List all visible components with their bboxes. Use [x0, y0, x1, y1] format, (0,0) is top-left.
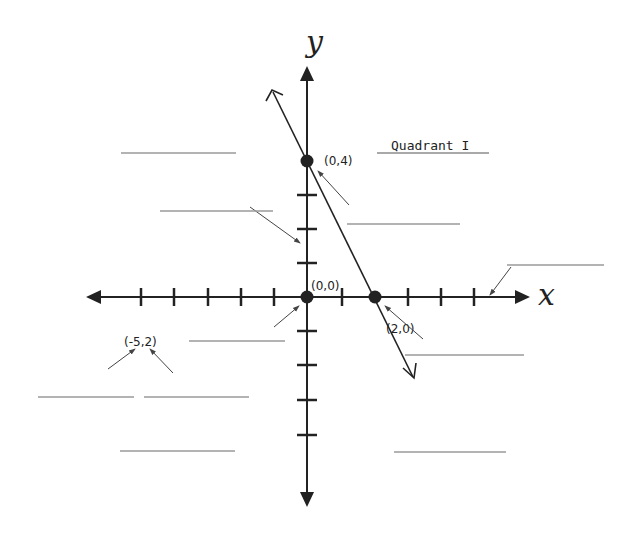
x-axis-label: x: [538, 277, 555, 312]
y-axis-label: y: [304, 24, 324, 59]
x-axis-right-arrow-icon: [515, 290, 530, 304]
point-0-4: [301, 155, 314, 168]
quadrant-label: Quadrant I: [391, 138, 469, 153]
pointer-to-origin: [274, 306, 299, 327]
point-label-0-4: (0,4): [324, 154, 352, 168]
point-label-0-0: (0,0): [311, 279, 339, 293]
pointer-to-0-4: [318, 171, 349, 205]
pointer-to-x-axis: [490, 267, 511, 295]
point-label-2-0: (2,0): [386, 322, 414, 336]
coordinate-plane-diagram: y x (0,4) (0,0) (2,0) (-5,2) Quadrant I: [0, 0, 640, 543]
pointer-from-neg5-2-left: [108, 349, 135, 369]
point-2-0: [369, 291, 382, 304]
pointer-to-y-axis: [250, 207, 300, 243]
pointer-from-neg5-2-right: [150, 349, 173, 373]
y-axis-top-arrow-icon: [300, 66, 314, 81]
y-axis-bottom-arrow-icon: [300, 492, 314, 507]
pointer-arrows: [108, 171, 511, 373]
point-label-neg5-2: (-5,2): [124, 335, 157, 349]
blank-answer-lines: [38, 153, 604, 452]
x-axis-left-arrow-icon: [86, 290, 101, 304]
